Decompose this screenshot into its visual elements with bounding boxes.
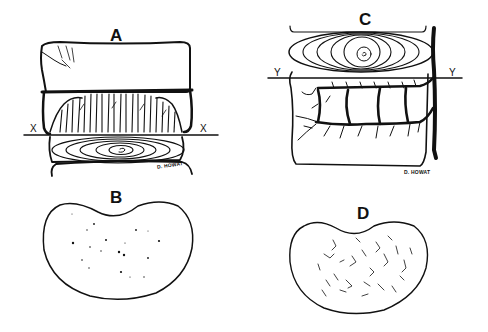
panel-label-d: D xyxy=(357,205,369,222)
panel-d-drawing xyxy=(290,222,428,314)
panel-label-a: A xyxy=(110,27,122,44)
line-label-y-left: Y xyxy=(274,68,281,78)
line-label-y-right: Y xyxy=(449,68,456,78)
panel-b-drawing xyxy=(43,202,192,299)
panel-c-drawing xyxy=(268,26,462,166)
panel-label-b: B xyxy=(110,189,122,206)
line-label-x-left: X xyxy=(30,124,37,134)
line-label-x-right: X xyxy=(200,124,207,134)
anatomical-illustration xyxy=(0,0,488,332)
panel-label-c: C xyxy=(359,11,371,28)
artist-signature-c: D. HOWAT xyxy=(404,170,430,175)
panel-a-drawing xyxy=(24,42,218,176)
